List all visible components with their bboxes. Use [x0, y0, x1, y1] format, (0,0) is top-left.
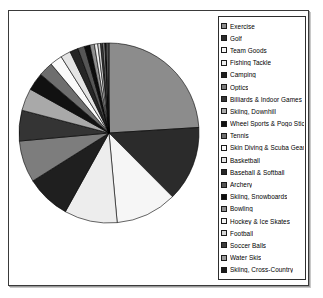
legend-item-label: Basketball — [230, 157, 260, 164]
pie-chart[interactable] — [13, 37, 205, 229]
legend-item-label: Baseball & Softball — [230, 169, 285, 176]
legend-swatch-icon — [221, 157, 227, 163]
legend-swatch-icon — [221, 23, 227, 29]
legend-item-label: Skin Diving & Scuba Gear — [230, 144, 304, 151]
legend-item[interactable]: Skiing, Snowboards — [221, 191, 304, 203]
legend-swatch-icon — [221, 35, 227, 41]
legend-item-label: Team Goods — [230, 47, 267, 54]
legend-swatch-icon — [221, 84, 227, 90]
legend-swatch-icon — [221, 194, 227, 200]
legend-item-label: Billiards & Indoor Games — [230, 96, 302, 103]
legend-item-label: Bowling — [230, 205, 253, 212]
legend-swatch-icon — [221, 47, 227, 53]
legend-item-label: Volleyball & Badminton Sets — [230, 279, 304, 280]
legend-item[interactable]: Archery — [221, 178, 304, 190]
legend-swatch-icon — [221, 230, 227, 236]
legend-item[interactable]: Team Goods — [221, 44, 304, 56]
legend-swatch-icon — [221, 96, 227, 102]
legend-swatch-icon — [221, 279, 227, 280]
legend-item[interactable]: Basketball — [221, 154, 304, 166]
legend-item[interactable]: Billiards & Indoor Games — [221, 93, 304, 105]
legend-item[interactable]: Baseball & Softball — [221, 166, 304, 178]
legend-item-label: Football — [230, 230, 253, 237]
legend-swatch-icon — [221, 60, 227, 66]
legend-item[interactable]: Optics — [221, 81, 304, 93]
legend-item-label: Wheel Sports & Pogo Sticks — [230, 120, 304, 127]
legend-item[interactable]: Fishing Tackle — [221, 57, 304, 69]
legend-item[interactable]: Exercise — [221, 20, 304, 32]
legend-item[interactable]: Tennis — [221, 130, 304, 142]
legend-item[interactable]: Hockey & Ice Skates — [221, 215, 304, 227]
legend-swatch-icon — [221, 255, 227, 261]
legend-swatch-icon — [221, 242, 227, 248]
legend-item[interactable]: Golf — [221, 32, 304, 44]
legend-item-label: Optics — [230, 84, 248, 91]
legend-item[interactable]: Skiing, Downhill — [221, 105, 304, 117]
legend-item[interactable]: Skin Diving & Scuba Gear — [221, 142, 304, 154]
legend-item[interactable]: Football — [221, 227, 304, 239]
legend-item[interactable]: Wheel Sports & Pogo Sticks — [221, 118, 304, 130]
legend-swatch-icon — [221, 182, 227, 188]
legend-item-label: Skiing, Downhill — [230, 108, 276, 115]
legend-swatch-icon — [221, 218, 227, 224]
legend-swatch-icon — [221, 169, 227, 175]
legend-swatch-icon — [221, 133, 227, 139]
legend-swatch-icon — [221, 145, 227, 151]
legend-item-label: Water Skis — [230, 254, 261, 261]
pie-plot-area[interactable] — [9, 11, 209, 285]
legend-swatch-icon — [221, 108, 227, 114]
legend-item-label: Archery — [230, 181, 252, 188]
legend-item-label: Fishing Tackle — [230, 59, 271, 66]
legend-item-label: Tennis — [230, 132, 249, 139]
legend-item-label: Golf — [230, 35, 242, 42]
legend-item[interactable]: Soccer Balls — [221, 239, 304, 251]
legend-item-label: Camping — [230, 71, 256, 78]
legend-swatch-icon — [221, 267, 227, 273]
legend-item[interactable]: Water Skis — [221, 252, 304, 264]
legend-item-label: Skiing, Snowboards — [230, 193, 287, 200]
legend-item-label: Hockey & Ice Skates — [230, 218, 290, 225]
chart-frame[interactable]: ExerciseGolfTeam GoodsFishing TackleCamp… — [8, 10, 309, 286]
legend-item[interactable]: Volleyball & Badminton Sets — [221, 276, 304, 280]
legend-swatch-icon — [221, 72, 227, 78]
legend-item[interactable]: Camping — [221, 69, 304, 81]
legend-item[interactable]: Skiing, Cross-Country — [221, 264, 304, 276]
legend-item[interactable]: Bowling — [221, 203, 304, 215]
legend-item-label: Skiing, Cross-Country — [230, 266, 293, 273]
pie-slice[interactable] — [109, 43, 199, 133]
legend-item-label: Soccer Balls — [230, 242, 266, 249]
chart-legend[interactable]: ExerciseGolfTeam GoodsFishing TackleCamp… — [218, 16, 306, 280]
legend-swatch-icon — [221, 206, 227, 212]
legend-item-label: Exercise — [230, 23, 255, 30]
legend-swatch-icon — [221, 121, 227, 127]
